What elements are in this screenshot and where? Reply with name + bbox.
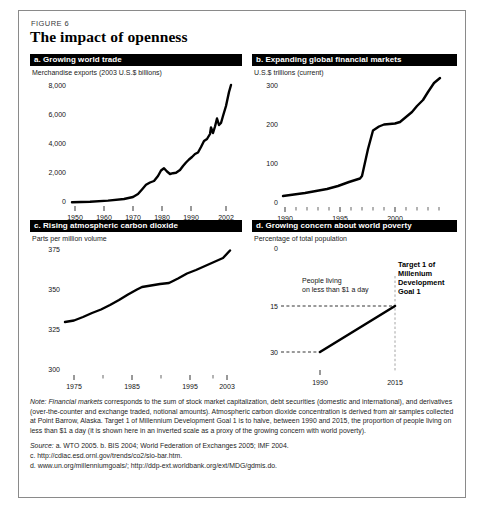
chart-c-xtick-1975: 1975 [66,383,82,390]
chart-c-xtick-2003: 2003 [219,383,235,390]
chart-b-ytick-300: 300 [266,82,278,89]
chart-b-ytick-200: 200 [266,121,278,128]
figure-container: FIGURE 6 The impact of openness a. Growi… [18,10,466,498]
chart-a-xaxis: 1950 1960 1970 1980 1990 2002 [67,206,234,221]
chart-a-ytick-8000: 8,000 [48,82,66,89]
chart-d-data-line [320,306,395,352]
panel-rising-atmospheric-carbon-dioxide: c. Rising atmospheric carbon dioxide Par… [30,220,242,392]
note-label: Note: [30,398,46,405]
source-ab-text: a. WTO 2005. b. BIS 2004; World Federati… [54,442,289,449]
chart-d-ytick-15: 15 [270,303,278,310]
chart-b-ytick-0: 0 [274,199,278,206]
chart-d-xaxis: 1990 2015 [312,370,403,386]
chart-c-ytick-350: 350 [48,286,60,293]
chart-d: 0 15 30 1990 2015 People living on less … [252,220,457,392]
source-line-ab: Source: a. WTO 2005. b. BIS 2004; World … [30,441,455,451]
chart-b-data-line [283,78,440,196]
panel-growing-world-trade: a. Growing world trade Merchandise expor… [30,54,242,226]
chart-a-ytick-6000: 6,000 [48,111,66,118]
note-italic-lead: Financial markets [48,398,102,405]
chart-d-ytick-0: 0 [274,245,278,252]
note-paragraph: Note: Financial markets corresponds to t… [30,397,455,435]
chart-a-ytick-4000: 4,000 [48,140,66,147]
figure-label: FIGURE 6 [31,19,69,28]
chart-d-target-annotation-line3: Development [398,278,445,287]
chart-c-data-line [65,251,230,323]
chart-c-xtick-1985: 1985 [124,383,140,390]
figure-notes: Note: Financial markets corresponds to t… [30,397,455,470]
chart-c-ytick-300: 300 [48,366,60,373]
chart-a: 8,000 6,000 4,000 2,000 0 1950 1960 1970… [30,54,242,226]
chart-a-ytick-0: 0 [62,198,66,205]
chart-d-target-annotation-line2: Millenium [398,269,433,278]
chart-c-xaxis: 1975 1985 1995 2003 [66,375,235,390]
chart-d-series-annotation-line2: on less than $1 a day [302,286,369,294]
source-line-c: c. http://cdiac.esd.ornl.gov/trends/co2/… [30,451,455,461]
chart-c-xtick-1995: 1995 [182,383,198,390]
source-label: Source: [30,442,54,449]
chart-c-ytick-325: 325 [48,326,60,333]
chart-d-xtick-1990: 1990 [312,379,328,386]
chart-d-ytick-30: 30 [270,349,278,356]
chart-a-data-line [72,85,231,202]
chart-d-target-annotation-line1: Target 1 of [398,260,436,269]
chart-b: 300 200 100 0 1990 1995 [252,54,457,226]
chart-a-ytick-2000: 2,000 [48,169,66,176]
chart-d-target-annotation-line4: Goal 1 [398,287,421,296]
panel-growing-concern-about-world-poverty: d. Growing concern about world poverty P… [252,220,457,392]
chart-d-series-annotation-line1: People living [302,277,342,285]
chart-c-ytick-375: 375 [48,246,60,253]
chart-b-ytick-100: 100 [266,160,278,167]
chart-d-xtick-2015: 2015 [387,379,403,386]
panel-expanding-global-financial-markets: b. Expanding global financial markets U.… [252,54,457,226]
chart-c: 375 350 325 300 1975 1985 1995 2003 [30,220,242,392]
source-line-d: d. www.un.org/millenniumgoals/; http://d… [30,461,455,471]
figure-title: The impact of openness [30,28,188,46]
